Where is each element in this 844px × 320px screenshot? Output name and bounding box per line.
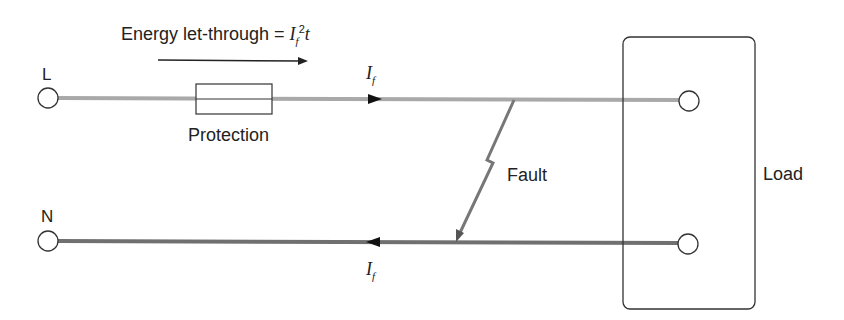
current-direction-arrow-icon bbox=[368, 94, 382, 104]
circuit-diagram bbox=[0, 0, 844, 320]
protection-label: Protection bbox=[188, 126, 269, 144]
fault-current-label-live: If bbox=[366, 64, 375, 86]
neutral-terminal-icon bbox=[38, 231, 58, 251]
fault-lightning-icon bbox=[458, 100, 514, 237]
live-terminal-label: L bbox=[42, 66, 51, 83]
load-label: Load bbox=[763, 165, 803, 183]
energy-let-through-label: Energy let-through = If2t bbox=[121, 24, 310, 47]
load-box bbox=[623, 37, 755, 309]
live-terminal-icon bbox=[38, 88, 58, 108]
neutral-terminal-label: N bbox=[41, 208, 53, 225]
load-terminal-live-icon bbox=[679, 91, 699, 111]
fault-label: Fault bbox=[507, 166, 547, 184]
load-terminal-neutral-icon bbox=[678, 234, 698, 254]
energy-arrow-icon bbox=[158, 60, 300, 61]
fault-current-label-neutral: If bbox=[366, 260, 375, 282]
return-current-arrow-icon bbox=[366, 237, 380, 247]
